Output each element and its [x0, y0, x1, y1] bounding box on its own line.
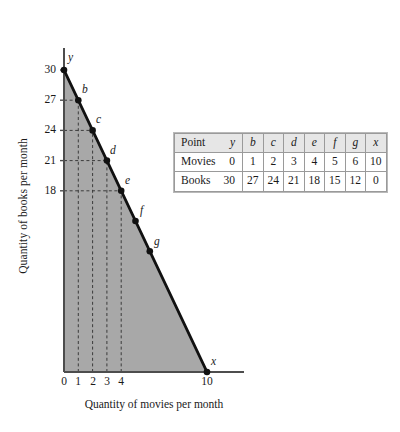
- table-cell-movies-y: 0: [220, 153, 243, 172]
- table-cell-books-e: 18: [304, 172, 325, 191]
- table-cell-books-y: 30: [220, 172, 243, 191]
- table-cell-books-b: 27: [243, 172, 264, 191]
- table-cell-books-x: 0: [366, 172, 387, 191]
- table-header-c: c: [263, 134, 284, 153]
- data-point-e: [118, 188, 125, 195]
- table-header-b: b: [243, 134, 264, 153]
- point-label-e: e: [125, 174, 130, 186]
- data-point-d: [104, 157, 111, 164]
- x-tick-label-1: 1: [71, 375, 85, 387]
- data-point-g: [147, 248, 154, 255]
- table-cell-movies-g: 6: [345, 153, 366, 172]
- x-tick-label-2: 2: [86, 375, 100, 387]
- point-label-d: d: [110, 144, 116, 156]
- point-label-f: f: [140, 204, 143, 216]
- table-header-row: Point y b c d e f g x: [175, 134, 387, 153]
- point-label-y: y: [68, 51, 73, 63]
- table-header-y: y: [220, 134, 243, 153]
- y-axis-title: Quantity of books per month: [17, 121, 29, 291]
- ppf-figure: 30 27 24 21 18 0 1 2 3 4 10 y b c d e f …: [0, 0, 400, 432]
- x-axis-title: Quantity of movies per month: [24, 398, 284, 410]
- y-tick-label-21: 21: [26, 154, 56, 166]
- table-cell-books-g: 12: [345, 172, 366, 191]
- table-header-g: g: [345, 134, 366, 153]
- y-tick-label-24: 24: [26, 123, 56, 135]
- table-cell-movies-b: 1: [243, 153, 264, 172]
- point-label-x: x: [211, 355, 216, 367]
- table-header-d: d: [284, 134, 305, 153]
- table-row-label-movies: Movies: [175, 153, 220, 172]
- y-tick-label-18: 18: [26, 184, 56, 196]
- table-cell-books-c: 24: [263, 172, 284, 191]
- point-data-table: Point y b c d e f g x Movies 0 1 2 3 4 5…: [174, 133, 387, 192]
- data-point-y: [61, 67, 68, 74]
- data-point-f: [132, 218, 139, 225]
- table-cell-movies-d: 3: [284, 153, 305, 172]
- x-tick-label-0: 0: [57, 375, 71, 387]
- table-row: Books 30 27 24 21 18 15 12 0: [175, 172, 387, 191]
- table-header-e: e: [304, 134, 325, 153]
- table-header-point: Point: [175, 134, 220, 153]
- x-tick-label-10: 10: [197, 375, 217, 387]
- table-row: Movies 0 1 2 3 4 5 6 10: [175, 153, 387, 172]
- table-cell-movies-c: 2: [263, 153, 284, 172]
- point-label-c: c: [96, 113, 101, 125]
- table-header-f: f: [325, 134, 346, 153]
- data-point-b: [75, 97, 82, 104]
- table-cell-movies-x: 10: [366, 153, 387, 172]
- table-header-x: x: [366, 134, 387, 153]
- table-row-label-books: Books: [175, 172, 220, 191]
- point-label-g: g: [154, 235, 160, 247]
- table-cell-books-f: 15: [325, 172, 346, 191]
- y-tick-label-27: 27: [26, 93, 56, 105]
- ppf-plot-canvas: [0, 0, 400, 432]
- x-tick-label-4: 4: [114, 375, 128, 387]
- table-cell-movies-f: 5: [325, 153, 346, 172]
- point-label-b: b: [82, 83, 88, 95]
- table-cell-books-d: 21: [284, 172, 305, 191]
- table-cell-movies-e: 4: [304, 153, 325, 172]
- data-point-c: [89, 127, 96, 134]
- y-tick-label-30: 30: [26, 63, 56, 75]
- x-tick-label-3: 3: [100, 375, 114, 387]
